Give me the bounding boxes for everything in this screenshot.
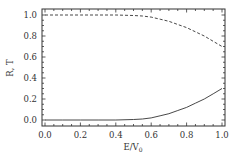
y-tick-label: 0.8 bbox=[23, 31, 37, 41]
x-axis-label: E/V0 bbox=[123, 142, 142, 153]
plot-frame bbox=[42, 9, 225, 126]
y-tick-label: 0.6 bbox=[23, 52, 37, 62]
series-r-line bbox=[45, 15, 222, 47]
x-tick-label: 0.6 bbox=[144, 130, 158, 140]
y-tick-label: 0.4 bbox=[23, 73, 37, 83]
axis-ticks bbox=[42, 9, 225, 126]
x-tick-label: 0.2 bbox=[74, 130, 88, 140]
x-tick-label: 0.0 bbox=[38, 130, 52, 140]
series-t-line bbox=[45, 89, 222, 121]
y-axis-label: R, T bbox=[5, 59, 15, 77]
x-tick-labels: 0.00.20.40.60.81.0 bbox=[38, 130, 229, 140]
plot-border bbox=[42, 9, 225, 126]
y-tick-label: 1.0 bbox=[23, 10, 37, 20]
x-tick-label: 0.4 bbox=[109, 130, 123, 140]
y-tick-label: 0.0 bbox=[23, 115, 37, 125]
chart: 0.00.20.40.60.81.0 0.00.20.40.60.81.0 R,… bbox=[0, 0, 239, 160]
y-tick-label: 0.2 bbox=[23, 94, 37, 104]
x-tick-label: 1.0 bbox=[215, 130, 229, 140]
y-tick-labels: 0.00.20.40.60.81.0 bbox=[23, 10, 37, 125]
x-tick-label: 0.8 bbox=[180, 130, 194, 140]
data-series bbox=[45, 15, 222, 120]
